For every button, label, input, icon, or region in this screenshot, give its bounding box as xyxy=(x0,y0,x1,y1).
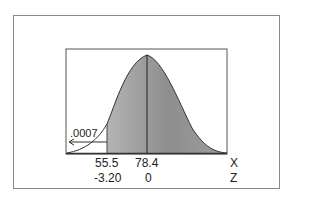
tail-area-label: .0007 xyxy=(70,128,98,139)
z-tick-mean: 0 xyxy=(145,172,152,184)
x-axis-label: X xyxy=(230,157,238,169)
x-tick-cutoff: 55.5 xyxy=(95,157,118,169)
z-axis-label: Z xyxy=(230,172,237,184)
x-tick-mean: 78.4 xyxy=(135,157,158,169)
z-tick-cutoff: -3.20 xyxy=(94,172,121,184)
